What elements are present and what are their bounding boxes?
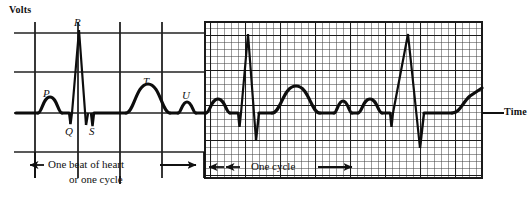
ecg-trace-coarse <box>16 97 69 113</box>
ecg-figure: Volts Time P R Q S T U One beat of heart… <box>0 0 528 206</box>
annotation-one-beat-line1: One beat of heart <box>48 159 124 170</box>
wave-label-u: U <box>182 90 190 101</box>
x-axis-label: Time <box>504 107 527 117</box>
wave-label-q: Q <box>65 126 73 137</box>
wave-label-r: R <box>74 17 81 28</box>
wave-label-p: P <box>43 88 50 99</box>
coarse-grid <box>14 22 204 178</box>
qrs-complex-coarse <box>69 30 94 126</box>
wave-label-t: T <box>143 76 149 87</box>
y-axis-label: Volts <box>9 5 31 15</box>
wave-label-s: S <box>89 126 95 137</box>
annotation-one-cycle: One cycle <box>251 161 295 172</box>
annotation-one-beat-line2: or one cycle <box>69 174 123 185</box>
